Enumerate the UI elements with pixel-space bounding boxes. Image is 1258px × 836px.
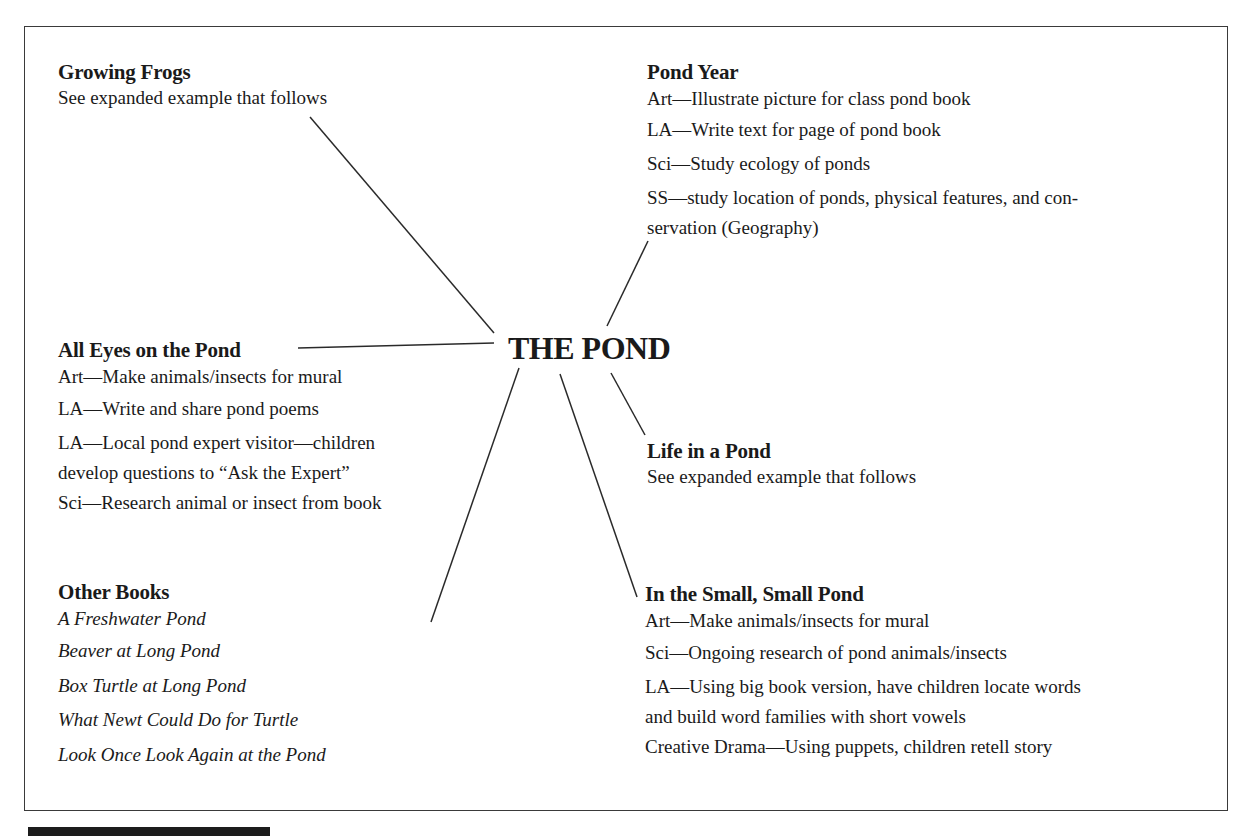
book-title: Box Turtle at Long Pond: [58, 669, 326, 704]
list-item: Art—Make animals/insects for mural: [645, 606, 1081, 636]
connector-small-pond: [560, 374, 637, 597]
node-in-the-small-small-pond: In the Small, Small Pond Art—Make animal…: [645, 582, 1081, 764]
node-title: Life in a Pond: [647, 439, 916, 463]
node-subtitle: See expanded example that follows: [647, 463, 916, 491]
list-item: develop questions to “Ask the Expert”: [58, 460, 381, 486]
book-title: A Freshwater Pond: [58, 604, 326, 634]
node-growing-frogs: Growing Frogs See expanded example that …: [58, 60, 327, 112]
list-item: Art—Make animals/insects for mural: [58, 362, 381, 392]
node-subtitle: See expanded example that follows: [58, 84, 327, 112]
book-title: Beaver at Long Pond: [58, 634, 326, 669]
list-item: Art—Illustrate picture for class pond bo…: [647, 84, 1078, 113]
book-title: What Newt Could Do for Turtle: [58, 703, 326, 738]
connector-pond-year: [607, 241, 648, 326]
node-all-eyes-on-the-pond: All Eyes on the Pond Art—Make animals/in…: [58, 338, 381, 520]
list-item: and build word families with short vowel…: [645, 704, 1081, 730]
node-life-in-a-pond: Life in a Pond See expanded example that…: [647, 439, 916, 491]
list-item: Sci—Ongoing research of pond animals/ins…: [645, 636, 1081, 670]
connector-other-books: [431, 368, 519, 622]
list-item: LA—Write and share pond poems: [58, 392, 381, 426]
node-pond-year: Pond Year Art—Illustrate picture for cla…: [647, 60, 1078, 241]
node-title: Growing Frogs: [58, 60, 327, 84]
list-item: Sci—Research animal or insect from book: [58, 486, 381, 520]
list-item: Sci—Study ecology of ponds: [647, 147, 1078, 181]
list-item: SS—study location of ponds, physical fea…: [647, 181, 1078, 215]
connector-life-in-pond: [611, 373, 645, 435]
central-topic: THE POND: [508, 328, 670, 368]
list-item: servation (Geography): [647, 215, 1078, 241]
node-title: Other Books: [58, 580, 326, 604]
book-title: Look Once Look Again at the Pond: [58, 738, 326, 773]
node-title: In the Small, Small Pond: [645, 582, 1081, 606]
node-title: All Eyes on the Pond: [58, 338, 381, 362]
page-footer-bar: [28, 827, 270, 836]
list-item: LA—Local pond expert visitor—children: [58, 426, 381, 460]
list-item: LA—Using big book version, have children…: [645, 670, 1081, 704]
list-item: LA—Write text for page of pond book: [647, 113, 1078, 147]
connector-growing-frogs: [310, 117, 494, 333]
node-title: Pond Year: [647, 60, 1078, 84]
node-other-books: Other Books A Freshwater Pond Beaver at …: [58, 580, 326, 772]
list-item: Creative Drama—Using puppets, children r…: [645, 730, 1081, 764]
